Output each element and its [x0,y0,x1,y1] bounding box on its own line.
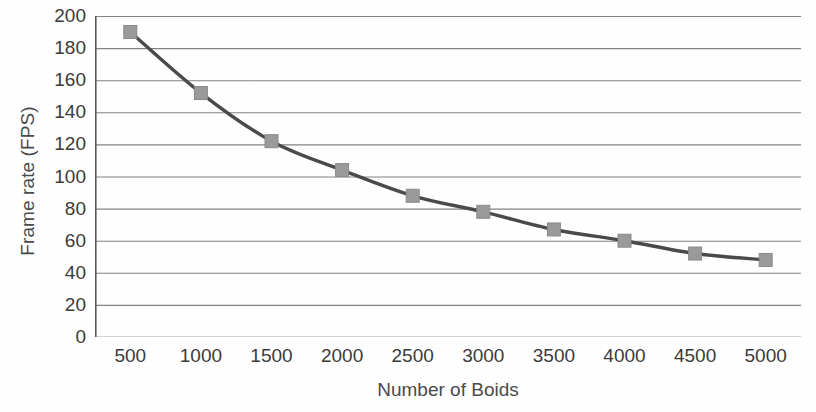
y-axis-tick-label: 180 [0,37,86,59]
data-series-line [130,32,765,260]
y-axis-tick-label: 80 [0,198,86,220]
data-point-marker[interactable] [124,26,137,39]
data-point-marker[interactable] [547,223,560,236]
y-axis-tick-label: 120 [0,133,86,155]
y-axis-tick-label: 100 [0,166,86,188]
y-axis-tick-label: 40 [0,262,86,284]
y-axis-tick-label: 140 [0,101,86,123]
frame-rate-line-chart: Frame rate (FPS) 02040608010012014016018… [0,0,816,412]
y-axis-tick-label: 60 [0,230,86,252]
data-point-marker[interactable] [265,135,278,148]
x-axis-tick-label: 5000 [721,345,811,367]
data-point-marker[interactable] [618,234,631,247]
x-axis-tick-labels: 500100015002000250030003500400045005000 [0,345,816,375]
plot-area [95,16,801,337]
y-axis-tick-label: 20 [0,294,86,316]
data-point-marker[interactable] [477,205,490,218]
data-point-marker[interactable] [336,164,349,177]
data-point-marker[interactable] [406,189,419,202]
x-axis-title: Number of Boids [95,379,801,401]
data-point-marker[interactable] [759,253,772,266]
y-axis-tick-label: 200 [0,5,86,27]
plot-canvas [95,16,801,337]
y-axis-tick-label: 160 [0,69,86,91]
data-point-marker[interactable] [194,87,207,100]
data-point-marker[interactable] [689,247,702,260]
